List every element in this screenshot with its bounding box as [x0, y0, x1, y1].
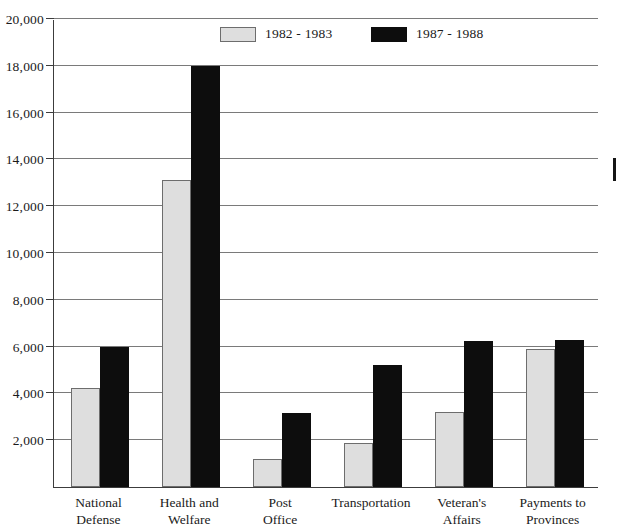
legend-swatch-gray — [220, 27, 256, 42]
y-axis-tick — [46, 205, 54, 206]
y-axis-label: 4,000 — [0, 386, 44, 402]
bar-series-1982-1983 — [344, 443, 373, 487]
y-axis-tick — [46, 299, 54, 300]
y-axis-label: 6,000 — [0, 340, 44, 356]
y-axis-tick — [46, 112, 54, 113]
y-axis-label: 16,000 — [0, 106, 44, 122]
y-axis-tick — [46, 392, 54, 393]
y-axis-label: 14,000 — [0, 152, 44, 168]
legend-label-1: 1987 - 1988 — [416, 26, 483, 42]
y-axis-tick — [46, 65, 54, 66]
gridline — [54, 205, 598, 206]
gridline — [54, 439, 598, 440]
bar-series-1987-1988 — [373, 365, 402, 487]
y-axis-tick — [46, 252, 54, 253]
bar-series-1987-1988 — [191, 66, 220, 487]
bar-series-1987-1988 — [555, 340, 584, 487]
legend-label-0: 1982 - 1983 — [265, 26, 332, 42]
gridline — [54, 18, 598, 19]
y-axis-label: 8,000 — [0, 293, 44, 309]
y-axis-label: 10,000 — [0, 246, 44, 262]
bar-series-1982-1983 — [435, 412, 464, 487]
y-axis-tick — [46, 158, 54, 159]
page-edge-artifact — [613, 158, 616, 181]
gridline — [54, 65, 598, 66]
y-axis-label: 2,000 — [0, 433, 44, 449]
bar-chart: 20,00018,00016,00014,00012,00010,0008,00… — [0, 0, 624, 530]
gridline — [54, 112, 598, 113]
bar-series-1982-1983 — [253, 459, 282, 487]
y-axis-tick — [46, 439, 54, 440]
y-axis-label: 20,000 — [0, 12, 44, 28]
gridline — [54, 252, 598, 253]
bar-series-1982-1983 — [71, 388, 100, 487]
plot-area — [53, 20, 598, 488]
x-axis-category-label: Payments to Provinces — [483, 494, 623, 528]
gridline — [54, 158, 598, 159]
bar-series-1982-1983 — [162, 180, 191, 487]
gridline — [54, 392, 598, 393]
bar-series-1982-1983 — [526, 349, 555, 487]
y-axis-label: 18,000 — [0, 59, 44, 75]
bar-series-1987-1988 — [100, 347, 129, 487]
y-axis-label: 12,000 — [0, 199, 44, 215]
legend-swatch-black — [371, 27, 407, 42]
y-axis-tick — [46, 346, 54, 347]
gridline — [54, 299, 598, 300]
gridline — [54, 346, 598, 347]
legend-item-1: 1987 - 1988 — [371, 26, 483, 42]
legend-item-0: 1982 - 1983 — [220, 26, 332, 42]
y-axis-tick — [46, 18, 54, 19]
bar-series-1987-1988 — [464, 341, 493, 487]
bar-series-1987-1988 — [282, 413, 311, 487]
